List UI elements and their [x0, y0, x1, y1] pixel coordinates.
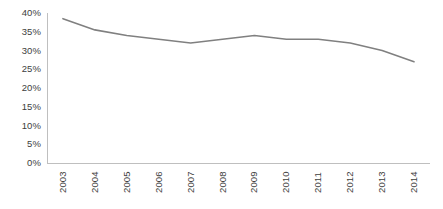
y-axis-tick-label: 5%: [27, 139, 41, 149]
x-axis-tick-label: 2003: [58, 153, 68, 193]
y-axis-tick-label: 40%: [22, 8, 41, 18]
x-axis-tick-label: 2007: [186, 153, 196, 193]
x-axis-tick-label: 2014: [409, 153, 419, 193]
series-line: [63, 19, 414, 62]
y-axis-tick-label-group: 0%5%10%15%20%25%30%35%40%: [0, 0, 44, 209]
x-axis-tick-label: 2004: [90, 153, 100, 193]
x-axis-tick-label-group: 2003200420052006200720082009201020112012…: [47, 164, 430, 209]
x-axis-tick-label: 2009: [249, 153, 259, 193]
x-axis-tick-label: 2010: [281, 153, 291, 193]
data-series-group: [47, 13, 430, 163]
y-axis-tick-label: 35%: [22, 27, 41, 37]
x-axis-tick-label: 2008: [218, 153, 228, 193]
x-axis-tick-label: 2012: [345, 153, 355, 193]
x-axis-tick-label: 2013: [377, 153, 387, 193]
y-axis-tick-label: 20%: [22, 83, 41, 93]
x-axis-tick-label: 2011: [313, 153, 323, 193]
line-chart: 0%5%10%15%20%25%30%35%40% 20032004200520…: [0, 0, 443, 209]
y-axis-tick-label: 25%: [22, 64, 41, 74]
y-axis-tick-label: 10%: [22, 121, 41, 131]
y-axis-tick-label: 0%: [27, 158, 41, 168]
y-axis-tick-label: 15%: [22, 102, 41, 112]
y-axis-tick-label: 30%: [22, 46, 41, 56]
plot-area: [47, 13, 430, 163]
x-axis-tick-label: 2006: [154, 153, 164, 193]
x-axis-tick-label: 2005: [122, 153, 132, 193]
